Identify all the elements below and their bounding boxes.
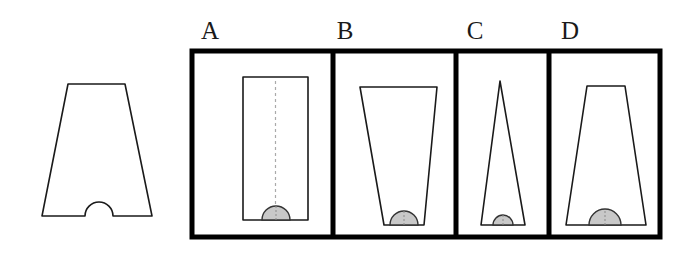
option-label-d: D <box>555 18 585 43</box>
option-label-b: B <box>330 18 360 43</box>
figure-canvas: A B C D <box>0 0 690 256</box>
option-b-outline <box>360 87 437 225</box>
option-c-outline <box>481 81 525 225</box>
option-d-outline <box>566 86 646 225</box>
reference-trapezoid-with-notch <box>42 84 152 216</box>
option-label-a: A <box>195 18 225 43</box>
option-label-c: C <box>460 18 490 43</box>
reference-shape-group <box>42 84 152 216</box>
option-a-shape-group[interactable] <box>243 77 308 220</box>
